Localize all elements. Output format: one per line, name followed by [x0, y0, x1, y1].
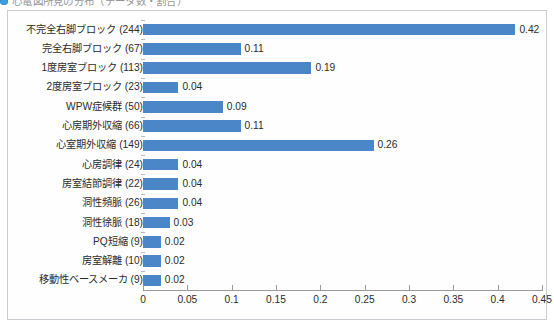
x-tick: [409, 285, 410, 291]
bar-container: 0.11: [143, 39, 542, 58]
x-tick: [320, 285, 321, 291]
row-tick: [141, 136, 145, 137]
bar-container: 0.02: [143, 252, 542, 271]
chart-row: PQ短縮 (9)0.02: [8, 232, 548, 251]
chart-row: 房室解離 (10)0.02: [8, 252, 548, 271]
category-label: 不完全右脚ブロック (244): [0, 25, 143, 35]
bar-container: 0.04: [143, 194, 542, 213]
bar-value-label: 0.11: [245, 121, 264, 131]
blue-bullet-icon: [0, 0, 8, 5]
bar-value-label: 0.19: [315, 63, 335, 73]
row-tick: [141, 39, 145, 40]
bar-container: 0.02: [143, 232, 542, 251]
bar: [143, 24, 515, 36]
x-tick-label: 0.15: [266, 294, 286, 305]
bar-container: 0.11: [143, 116, 542, 135]
row-tick: [141, 20, 145, 21]
x-axis-line: [143, 290, 542, 291]
bar-container: 0.42: [143, 20, 542, 39]
x-tick: [365, 285, 366, 291]
row-tick: [141, 252, 145, 253]
x-tick-label: 0.3: [402, 294, 416, 305]
bar: [143, 62, 311, 74]
bar-value-label: 0.02: [165, 256, 185, 266]
chart-row: 1度房室ブロック (113)0.19: [8, 59, 548, 78]
row-tick: [141, 78, 145, 79]
chart-row: 洞性徐脈 (18)0.03: [8, 213, 548, 232]
bar-value-label: 0.04: [182, 160, 202, 170]
bar-value-label: 0.04: [182, 179, 202, 189]
bar: [143, 82, 178, 94]
bar: [143, 43, 241, 55]
x-tick: [542, 285, 543, 291]
bar: [143, 275, 161, 287]
row-tick: [141, 271, 145, 272]
row-tick: [141, 213, 145, 214]
category-label: PQ短縮 (9): [0, 237, 143, 247]
bar: [143, 217, 170, 229]
x-tick-label: 0.35: [443, 294, 463, 305]
bar-container: 0.03: [143, 213, 542, 232]
row-tick: [141, 117, 145, 118]
x-tick-label: 0.05: [177, 294, 197, 305]
bar-container: 0.04: [143, 174, 542, 193]
bar: [143, 120, 241, 132]
row-tick: [141, 194, 145, 195]
bar: [143, 198, 178, 210]
bar-value-label: 0.09: [227, 102, 247, 112]
category-label: 心房期外収縮 (66): [0, 121, 143, 131]
x-tick: [276, 285, 277, 291]
bar-container: 0.26: [143, 136, 542, 155]
bar-value-label: 0.04: [182, 82, 202, 92]
bar-container: 0.04: [143, 78, 542, 97]
chart-row: 完全右脚ブロック (67)0.11: [8, 39, 548, 58]
chart-row: 2度房室ブロック (23)0.04: [8, 78, 548, 97]
chart-row: 心房調律 (24)0.04: [8, 155, 548, 174]
category-label: 洞性頻脈 (26): [0, 198, 143, 208]
bar-chart-plot: 不完全右脚ブロック (244)0.42完全右脚ブロック (67)0.111度房室…: [8, 11, 548, 321]
bar: [143, 140, 374, 152]
chart-row: 移動性ベースメーカ (9)0.02: [8, 271, 548, 290]
chart-row: 不完全右脚ブロック (244)0.42: [8, 20, 548, 39]
x-tick: [143, 285, 144, 291]
category-label: 1度房室ブロック (113): [0, 63, 143, 73]
x-tick: [498, 285, 499, 291]
chart-row: WPW症候群 (50)0.09: [8, 97, 548, 116]
x-tick-label: 0.45: [532, 294, 552, 305]
bar: [143, 255, 161, 267]
page-heading: 心電図所見の分布（データ数・割合）: [0, 0, 554, 9]
bar-container: 0.02: [143, 271, 542, 290]
x-tick-label: 0.4: [491, 294, 505, 305]
bar: [143, 101, 223, 113]
bar: [143, 236, 161, 248]
category-label: WPW症候群 (50): [0, 102, 143, 112]
chart-row: 心房期外収縮 (66)0.11: [8, 116, 548, 135]
chart-row: 心室期外収縮 (149)0.26: [8, 136, 548, 155]
x-tick-label: 0.1: [225, 294, 239, 305]
bar-value-label: 0.04: [182, 198, 202, 208]
chart-frame: 不完全右脚ブロック (244)0.42完全右脚ブロック (67)0.111度房室…: [7, 10, 547, 320]
x-tick: [187, 285, 188, 291]
row-tick: [141, 174, 145, 175]
row-tick: [141, 155, 145, 156]
row-tick: [141, 232, 145, 233]
bar-value-label: 0.03: [174, 218, 194, 228]
chart-row: 房室結節調律 (22)0.04: [8, 174, 548, 193]
chart-rows: 不完全右脚ブロック (244)0.42完全右脚ブロック (67)0.111度房室…: [8, 20, 548, 290]
row-tick: [141, 97, 145, 98]
category-label: 心房調律 (24): [0, 160, 143, 170]
bar-value-label: 0.26: [378, 140, 398, 150]
chart-row: 洞性頻脈 (26)0.04: [8, 194, 548, 213]
bar-value-label: 0.42: [519, 25, 539, 35]
category-label: 移動性ベースメーカ (9): [0, 275, 143, 285]
x-tick-label: 0: [140, 294, 146, 305]
bar-value-label: 0.02: [165, 275, 185, 285]
bar: [143, 178, 178, 190]
row-tick: [141, 59, 145, 60]
x-tick: [232, 285, 233, 291]
category-label: 房室結節調律 (22): [0, 179, 143, 189]
category-label: 完全右脚ブロック (67): [0, 44, 143, 54]
x-tick-label: 0.25: [355, 294, 375, 305]
bar-value-label: 0.02: [165, 237, 185, 247]
category-label: 2度房室ブロック (23): [0, 82, 143, 92]
